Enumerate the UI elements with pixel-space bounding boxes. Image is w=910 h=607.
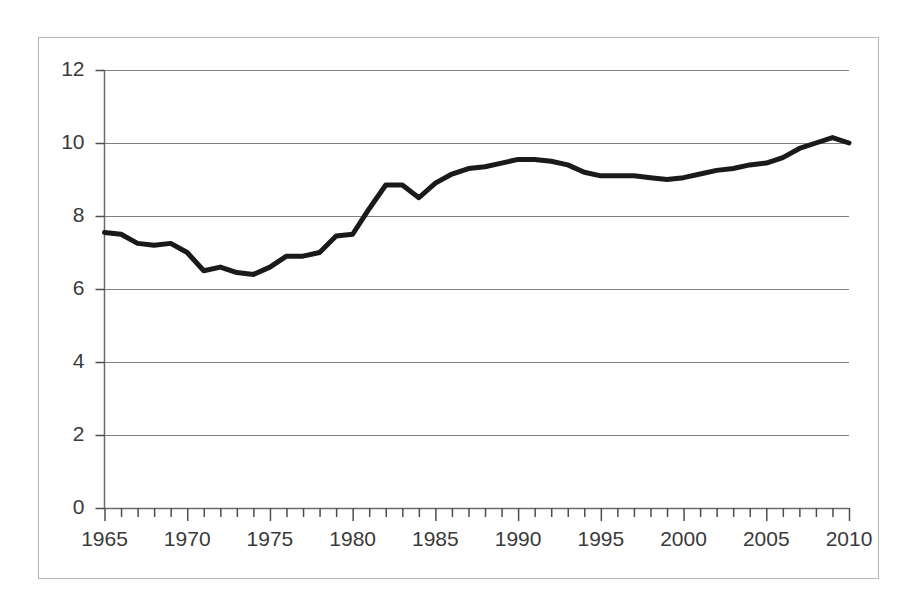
x-tick-label-1965: 1965: [81, 527, 128, 550]
line-chart: 024681012 196519701975198019851990199520…: [0, 0, 910, 607]
chart-figure: 024681012 196519701975198019851990199520…: [0, 0, 910, 607]
x-tick-label-1970: 1970: [164, 527, 211, 550]
y-tick-label-4: 4: [73, 349, 85, 372]
x-tick-label-1985: 1985: [412, 527, 459, 550]
y-tick-label-2: 2: [73, 422, 85, 445]
x-tick-label-1995: 1995: [577, 527, 624, 550]
x-tick-label-2010: 2010: [826, 527, 873, 550]
x-tick-label-1980: 1980: [329, 527, 376, 550]
y-tick-label-8: 8: [73, 203, 85, 226]
y-tick-label-0: 0: [73, 495, 85, 518]
x-tick-label-2000: 2000: [660, 527, 707, 550]
x-tick-label-2005: 2005: [743, 527, 790, 550]
y-tick-label-10: 10: [61, 130, 84, 153]
figure-background: [0, 0, 910, 607]
y-tick-label-6: 6: [73, 276, 85, 299]
x-tick-label-1990: 1990: [495, 527, 542, 550]
y-tick-label-12: 12: [61, 57, 84, 80]
x-tick-label-1975: 1975: [247, 527, 294, 550]
